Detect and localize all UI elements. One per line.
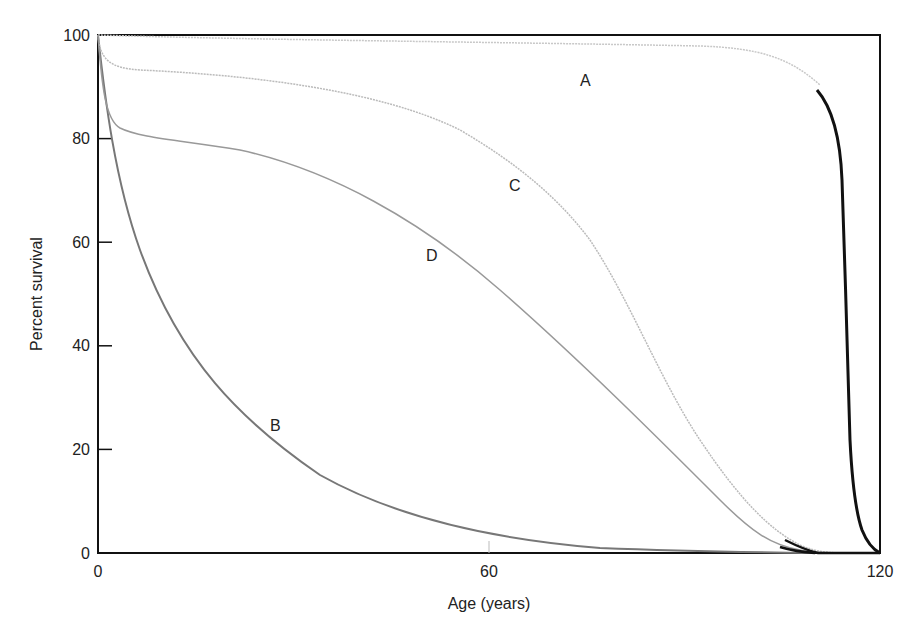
plot-frame [98, 35, 880, 553]
x-tick-label: 0 [94, 563, 103, 580]
x-axis-label: Age (years) [448, 595, 531, 612]
curve-label-c: C [509, 177, 521, 194]
curve-d [98, 35, 845, 553]
curve-c [98, 35, 845, 553]
curve-b [98, 35, 815, 553]
y-tick-label: 100 [63, 27, 90, 44]
curve-a-upper [98, 35, 820, 85]
curve-a-lower [817, 90, 880, 553]
x-tick-label: 120 [867, 563, 894, 580]
y-axis-ticks [98, 35, 112, 553]
y-tick-label: 80 [72, 130, 90, 147]
curve-label-d: D [426, 247, 438, 264]
y-tick-label: 60 [72, 234, 90, 251]
y-axis-label: Percent survival [28, 237, 45, 351]
x-tick-label: 60 [480, 563, 498, 580]
curve-label-b: B [270, 417, 281, 434]
curve-label-a: A [580, 72, 591, 89]
y-tick-label: 20 [72, 441, 90, 458]
y-tick-label: 40 [72, 337, 90, 354]
y-tick-label: 0 [81, 545, 90, 562]
survival-chart: 0 20 40 60 80 100 0 60 120 Age (years) P… [0, 0, 923, 638]
